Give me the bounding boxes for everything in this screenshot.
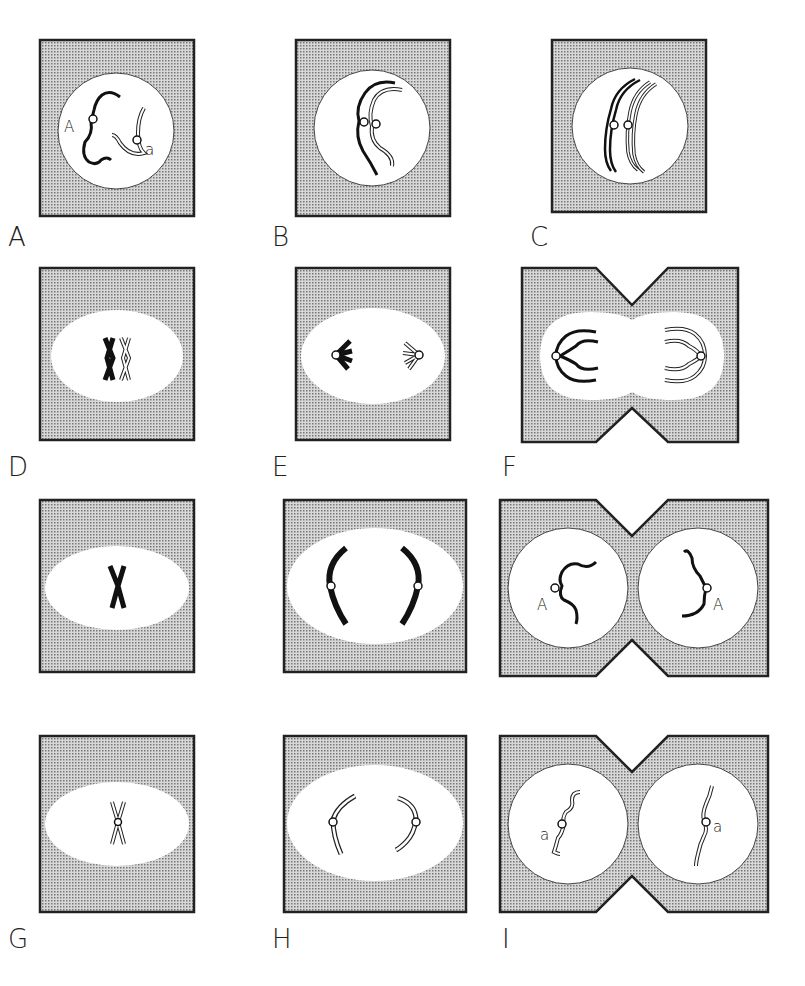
panel-b xyxy=(296,40,450,216)
allele-label: A xyxy=(713,596,723,614)
panel-label-c: C xyxy=(530,222,548,252)
panel-label-e: E xyxy=(272,452,288,482)
panel-j xyxy=(40,736,194,912)
allele-label: a xyxy=(713,818,722,836)
meiosis-diagram xyxy=(0,0,805,986)
panel-e xyxy=(296,268,450,440)
allele-label: a xyxy=(540,826,549,844)
panel-d xyxy=(40,268,194,440)
panel-c xyxy=(552,40,706,212)
allele-label: A xyxy=(537,596,547,614)
panel-k xyxy=(284,736,466,912)
panel-label-b: B xyxy=(272,222,289,252)
panel-i xyxy=(500,500,768,676)
panel-f xyxy=(522,268,738,442)
panel-label-g: G xyxy=(8,924,28,954)
panel-l xyxy=(500,736,768,912)
allele-label: a xyxy=(145,141,154,159)
allele-label: A xyxy=(64,118,74,136)
panel-label-h: H xyxy=(272,924,292,954)
panel-label-i: I xyxy=(502,924,510,954)
panel-h xyxy=(284,500,466,672)
panel-label-a: A xyxy=(8,222,26,252)
panel-g xyxy=(40,500,194,672)
panel-label-f: F xyxy=(502,452,517,482)
panel-label-d: D xyxy=(8,452,28,482)
